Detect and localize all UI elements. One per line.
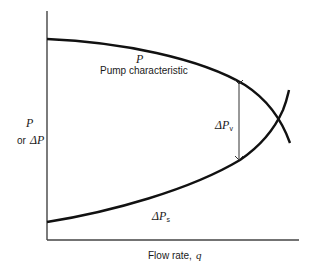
delta-pv-label: ΔPv bbox=[215, 116, 233, 132]
x-axis-label-var: q bbox=[196, 249, 202, 261]
y-axis-label-p: P bbox=[26, 117, 33, 129]
delta-ps-label: ΔPs bbox=[152, 207, 170, 223]
delta-ps-subscript: s bbox=[166, 216, 170, 223]
delta-pv-subscript: v bbox=[229, 125, 233, 132]
delta-ps-symbol: ΔP bbox=[152, 209, 166, 223]
pump-curve-label: Pump characteristic bbox=[100, 66, 188, 76]
x-axis-label-text: Flow rate, bbox=[148, 250, 192, 261]
y-axis-label-alt: or ΔP bbox=[17, 131, 44, 147]
x-axis-label: Flow rate, q bbox=[148, 246, 201, 262]
y-axis-label-delta-p: ΔP bbox=[30, 133, 44, 147]
y-axis-label-or: or bbox=[17, 135, 26, 146]
pump-characteristic-curve bbox=[47, 39, 290, 143]
pump-curve-symbol: P bbox=[136, 53, 143, 65]
delta-pv-symbol: ΔP bbox=[215, 118, 229, 132]
system-curve bbox=[47, 90, 289, 222]
